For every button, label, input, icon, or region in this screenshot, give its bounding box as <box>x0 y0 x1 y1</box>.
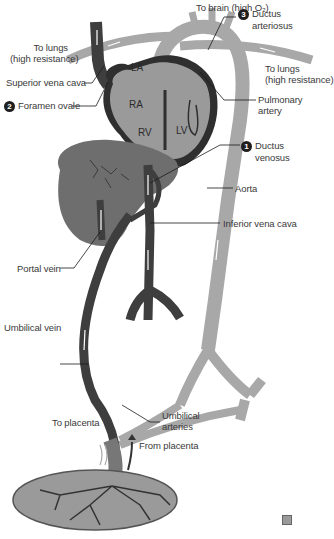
pulmonary-artery-line2: artery <box>258 105 303 116</box>
chamber-rv: RV <box>138 127 152 138</box>
umbilical-arteries-label: Umbilical arteries <box>162 410 200 432</box>
from-placenta-arrow <box>128 442 132 470</box>
ductus-arteriosus-line1: Ductus <box>252 8 281 19</box>
inferior-vena-cava-label: Inferior vena cava <box>223 218 297 229</box>
pulmonary-artery-label: Pulmonary artery <box>258 94 303 116</box>
ductus-arteriosus-line2: arteriosus <box>238 20 293 31</box>
umbilical-arteries-line1: Umbilical <box>162 410 200 421</box>
foramen-ovale-label: 2Foramen ovale <box>4 100 80 112</box>
chamber-ra: RA <box>129 99 143 110</box>
to-placenta-arrows <box>100 445 107 465</box>
pulmonary-artery-line1: Pulmonary <box>258 94 303 105</box>
superior-vena-cava-label: Superior vena cava <box>6 77 86 88</box>
to-lungs-left-line2: (high resistance) <box>10 53 68 64</box>
portal-vein-label: Portal vein <box>17 263 61 274</box>
aorta-label: Aorta <box>235 183 257 194</box>
umbilical-vein-label: Umbilical vein <box>4 322 61 333</box>
to-lungs-right-label: To lungs (high resistance) <box>265 63 334 85</box>
ductus-venosus-line1: Ductus <box>255 140 284 151</box>
chamber-lv: LV <box>176 125 188 136</box>
chamber-la: LA <box>131 62 143 73</box>
ductus-venosus-line2: venosus <box>241 152 290 163</box>
to-placenta-label: To placenta <box>52 417 100 428</box>
number-badge-1: 1 <box>241 141 252 152</box>
number-badge-2: 2 <box>4 101 15 112</box>
to-lungs-left-line1: To lungs <box>10 42 68 53</box>
umbilical-arteries-line2: arteries <box>162 421 200 432</box>
to-lungs-left-label: To lungs (high resistance) <box>10 42 68 64</box>
publisher-logo-icon <box>282 515 292 525</box>
to-lungs-right-line2: (high resistance) <box>265 74 334 85</box>
foramen-ovale-text: Foramen ovale <box>18 100 80 111</box>
ductus-venosus-label: 1Ductus venosus <box>241 140 290 163</box>
from-placenta-label: From placenta <box>139 440 198 451</box>
number-badge-3: 3 <box>238 9 249 20</box>
ductus-arteriosus-label: 3Ductus arteriosus <box>238 8 293 31</box>
to-lungs-right-line1: To lungs <box>265 63 334 74</box>
